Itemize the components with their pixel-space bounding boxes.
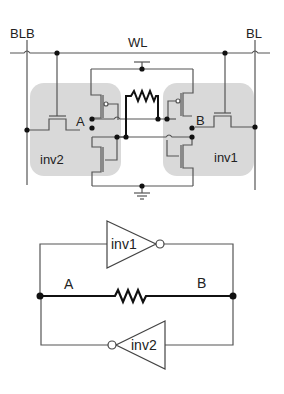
internal-resistor	[126, 91, 158, 137]
inv1-region	[163, 83, 254, 176]
inv2-input-wire	[165, 296, 233, 345]
bl-label: BL	[246, 26, 262, 41]
wordline-wire	[10, 51, 270, 53]
inv2-output-wire	[41, 296, 108, 345]
inv1-bubble	[156, 240, 164, 248]
wl-label: WL	[128, 35, 148, 50]
transistor-schematic: BLB WL BL A B inv2 inv1	[10, 26, 270, 199]
logic-node-b-label: B	[197, 275, 206, 291]
node-b-dot	[230, 293, 237, 300]
logic-node-a-label: A	[64, 276, 74, 292]
inv1-label: inv1	[214, 150, 238, 165]
inv2-label: inv2	[40, 152, 64, 167]
logic-inv2-label: inv2	[131, 337, 157, 353]
inv1-input-wire	[40, 244, 107, 296]
inv2-bubble	[108, 341, 116, 349]
blb-label: BLB	[10, 26, 35, 41]
logic-diagram: inv1 inv2 A B	[37, 221, 237, 369]
node-a-label: A	[76, 114, 85, 129]
node-a-dot	[37, 293, 44, 300]
diagram-canvas: BLB WL BL A B inv2 inv1 inv1	[0, 0, 284, 394]
logic-inv1-label: inv1	[111, 236, 137, 252]
node-b-label: B	[196, 113, 205, 128]
